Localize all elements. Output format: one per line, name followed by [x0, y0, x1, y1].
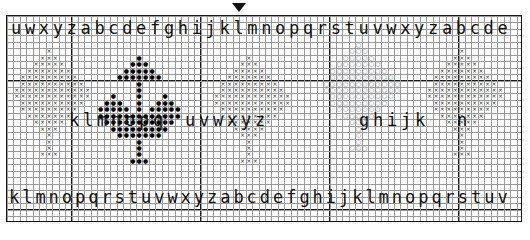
cross-stitch-chart: ××××××××××××××××××××××××××××××××××××××××… [0, 0, 530, 240]
top-letter-x-28: x [400, 20, 410, 37]
stitch-symbol-dot: ● [168, 119, 174, 125]
stitch-symbol-cross: × [278, 106, 284, 112]
bottom-letter-v-11: v [154, 189, 164, 206]
middle-letter-n-3: n [111, 112, 121, 129]
bottom-letter-k-0: k [9, 189, 19, 206]
stitch-symbol-circle: ○ [388, 93, 394, 99]
middle-letter-j-16: j [401, 112, 411, 129]
stitch-symbol-cross: × [265, 119, 271, 125]
stitch-symbol-cross: × [252, 157, 258, 163]
bottom-letter-j-25: j [339, 189, 349, 206]
top-letter-u-25: u [359, 20, 369, 37]
middle-letter-u-7: u [185, 112, 195, 129]
top-letter-z-4: z [67, 20, 77, 37]
bottom-letter-r-7: r [101, 189, 111, 206]
stitch-symbol-cross: × [491, 99, 497, 105]
stitch-symbol-cross: × [52, 151, 58, 157]
bottom-letter-h-23: h [313, 189, 323, 206]
top-letter-g-11: g [164, 20, 174, 37]
stitch-cell: × [84, 93, 90, 99]
top-letter-f-10: f [150, 20, 160, 37]
stitch-symbol-dot: ● [155, 74, 161, 80]
pattern-grid-frame: ××××××××××××××××××××××××××××××××××××××××… [6, 15, 522, 222]
bottom-letter-t-35: t [471, 189, 481, 206]
bottom-letter-s-8: s [115, 189, 125, 206]
stitch-cell: ○ [388, 93, 394, 99]
stitch-symbol-cross: × [78, 99, 84, 105]
middle-letter-k-0: k [69, 112, 79, 129]
top-letter-z-30: z [428, 20, 438, 37]
top-letter-l-16: l [233, 20, 243, 37]
bottom-letter-u-36: u [484, 189, 494, 206]
stitch-symbol-circle: ○ [362, 145, 368, 151]
bottom-letter-t-9: t [128, 189, 138, 206]
stitch-cell: ○ [381, 100, 387, 106]
top-letter-c-33: c [470, 20, 480, 37]
top-letter-c-7: c [108, 20, 118, 37]
stitch-cell: ● [142, 158, 148, 164]
stitch-symbol-circle: ○ [381, 99, 387, 105]
stitch-symbol-cross: × [284, 99, 290, 105]
stitch-symbol-circle: ○ [394, 86, 400, 92]
bottom-letter-g-22: g [299, 189, 309, 206]
stitch-cell: × [252, 158, 258, 164]
bottom-letter-f-21: f [286, 189, 296, 206]
stitch-symbol-cross: × [465, 151, 471, 157]
bottom-letter-l-1: l [22, 189, 32, 206]
middle-letter-z-12: z [255, 112, 265, 129]
bottom-letter-m-2: m [35, 189, 45, 206]
bottom-letter-y-14: y [194, 189, 204, 206]
bottom-letter-r-33: r [445, 189, 455, 206]
stitch-cell: × [59, 119, 65, 125]
stitch-cell: ○ [394, 87, 400, 93]
middle-letter-q-6: q [153, 112, 163, 129]
bottom-letter-i-24: i [326, 189, 336, 206]
stitch-cell: × [252, 132, 258, 138]
top-letter-w-27: w [386, 20, 396, 37]
bottom-letter-p-5: p [75, 189, 85, 206]
top-letter-e-35: e [498, 20, 508, 37]
stitch-cell: × [265, 119, 271, 125]
bottom-letter-k-26: k [352, 189, 362, 206]
stitch-cell: × [491, 100, 497, 106]
middle-letter-m-2: m [97, 112, 107, 129]
top-letter-o-19: o [275, 20, 285, 37]
middle-letter-l-1: l [83, 112, 93, 129]
bottom-letter-n-29: n [392, 189, 402, 206]
stitch-symbol-cross: × [84, 93, 90, 99]
top-letter-b-32: b [456, 20, 466, 37]
top-letter-u-0: u [11, 20, 21, 37]
bottom-letter-d-19: d [260, 189, 270, 206]
middle-letter-g-13: g [359, 112, 369, 129]
middle-letter-w-9: w [213, 112, 223, 129]
bottom-letter-a-16: a [220, 189, 230, 206]
bottom-letter-b-17: b [233, 189, 243, 206]
bottom-letter-e-20: e [273, 189, 283, 206]
top-letter-m-17: m [247, 20, 257, 37]
top-letter-r-22: r [317, 20, 327, 37]
stitch-cell: ● [175, 113, 181, 119]
stitch-cell: × [271, 113, 277, 119]
top-letter-t-24: t [345, 20, 355, 37]
top-letter-y-29: y [414, 20, 424, 37]
top-letter-b-6: b [94, 20, 104, 37]
stitch-symbol-cross: × [478, 112, 484, 118]
bottom-letter-q-32: q [431, 189, 441, 206]
top-letter-d-34: d [484, 20, 494, 37]
top-letter-x-2: x [39, 20, 49, 37]
middle-letter-p-5: p [139, 112, 149, 129]
bottom-letter-p-31: p [418, 189, 428, 206]
stitch-cell: ○ [362, 145, 368, 151]
stitch-cell: × [497, 93, 503, 99]
stitch-symbol-cross: × [59, 119, 65, 125]
stitch-symbol-cross: × [252, 132, 258, 138]
stitch-symbol-dot: ● [155, 132, 161, 138]
middle-letter-o-4: o [125, 112, 135, 129]
stitch-cell: × [484, 106, 490, 112]
bottom-letter-x-13: x [181, 189, 191, 206]
top-letter-v-26: v [372, 20, 382, 37]
top-letter-w-1: w [25, 20, 35, 37]
stitch-cell: × [465, 151, 471, 157]
stitch-symbol-cross: × [497, 93, 503, 99]
bottom-letter-m-28: m [379, 189, 389, 206]
